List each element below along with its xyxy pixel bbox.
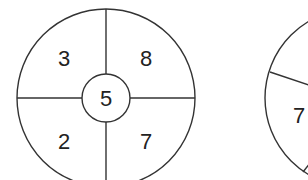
segment-top-right: 8: [140, 46, 152, 71]
number-circle-diagram: 3 8 2 7 5 7: [0, 0, 308, 180]
divider-upper: [270, 72, 308, 92]
right-circle: [265, 9, 308, 180]
center-number: 5: [100, 86, 112, 111]
segment-top-left: 3: [58, 46, 70, 71]
segment-bottom-right: 7: [140, 129, 152, 154]
outer-circle-right: [265, 9, 308, 180]
right-segment-number: 7: [293, 103, 305, 128]
segment-bottom-left: 2: [58, 129, 70, 154]
divider-lower: [303, 150, 308, 172]
